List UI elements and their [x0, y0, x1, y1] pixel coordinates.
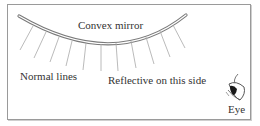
normal-lines — [20, 25, 185, 71]
reflective-side-label: Reflective on this side — [108, 75, 206, 86]
convex-mirror-label: Convex mirror — [78, 20, 143, 31]
eye-label: Eye — [228, 104, 245, 115]
normal-lines-label: Normal lines — [20, 71, 77, 82]
eye-icon — [226, 74, 245, 100]
